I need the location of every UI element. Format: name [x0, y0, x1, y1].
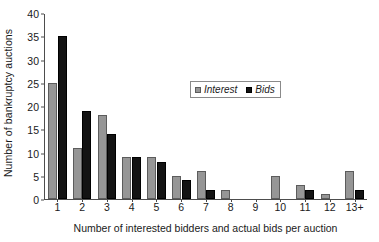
- x-axis-title: Number of interested bidders and actual …: [44, 222, 367, 234]
- bar-bids-2: [82, 111, 91, 199]
- bar-group: [45, 14, 70, 199]
- bar-group: [169, 14, 194, 199]
- bankruptcy-auctions-bar-chart: Number of bankruptcy auctions 0510152025…: [0, 0, 379, 242]
- y-axis: 0510152025303540: [16, 14, 44, 200]
- legend-entry-bids: Bids: [246, 84, 274, 95]
- bar-interest-12: [321, 194, 330, 199]
- bar-interest-11: [296, 185, 305, 199]
- bar-interest-5: [147, 157, 156, 199]
- bar-bids-7: [206, 190, 215, 199]
- bar-interest-7: [197, 171, 206, 199]
- y-axis-tick-label: 35: [27, 31, 39, 43]
- y-axis-tick-label: 15: [27, 124, 39, 136]
- bar-bids-5: [157, 162, 166, 199]
- x-axis-tick-label: 3: [104, 201, 110, 213]
- x-axis-tick-label: 8: [228, 201, 234, 213]
- y-axis-tick-label: 0: [33, 194, 39, 206]
- bar-interest-4: [122, 157, 131, 199]
- bar-bids-11: [305, 190, 314, 199]
- bar-group: [194, 14, 219, 199]
- x-axis-tick-label: 11: [300, 201, 311, 213]
- x-axis-tick-label: 10: [274, 201, 286, 213]
- y-axis-tick-label: 40: [27, 8, 39, 20]
- bar-group: [218, 14, 243, 199]
- bar-bids-1: [58, 36, 67, 199]
- bar-interest-6: [172, 176, 181, 199]
- legend-entry-interest: Interest: [195, 84, 237, 95]
- bar-bids-4: [132, 157, 141, 199]
- gray-square-swatch-icon: [195, 87, 201, 93]
- bar-group: [268, 14, 293, 199]
- bar-interest-2: [73, 148, 82, 199]
- y-axis-tick-label: 20: [27, 101, 39, 113]
- legend-label-bids: Bids: [255, 84, 274, 95]
- bar-group: [293, 14, 318, 199]
- y-axis-tick-label: 30: [27, 55, 39, 67]
- y-axis-tick-label: 5: [33, 171, 39, 183]
- x-axis-tick-label: 1: [54, 201, 60, 213]
- bar-group: [243, 14, 268, 199]
- bar-group: [342, 14, 367, 199]
- x-axis-tick-label: 13+: [346, 201, 364, 213]
- y-axis-tick-label: 10: [27, 148, 39, 160]
- y-axis-title: Number of bankruptcy auctions: [0, 0, 16, 205]
- y-axis-title-text: Number of bankruptcy auctions: [2, 28, 14, 176]
- bar-interest-3: [98, 115, 107, 199]
- bar-group: [144, 14, 169, 199]
- bar-bids-13+: [355, 190, 364, 199]
- x-axis-tick-labels: 12345678910111213+: [44, 201, 367, 217]
- chart-legend: Interest Bids: [190, 81, 281, 98]
- bar-group: [70, 14, 95, 199]
- bar-group: [119, 14, 144, 199]
- bar-group: [317, 14, 342, 199]
- x-axis-tick-label: 4: [129, 201, 135, 213]
- bar-bids-3: [107, 134, 116, 199]
- y-axis-tick-label: 25: [27, 78, 39, 90]
- x-axis-tick-label: 12: [324, 201, 336, 213]
- x-axis-tick-label: 5: [154, 201, 160, 213]
- bar-interest-8: [221, 190, 230, 199]
- black-square-swatch-icon: [246, 87, 252, 93]
- plot-area: [44, 14, 367, 200]
- bar-group: [95, 14, 120, 199]
- x-axis-tick-label: 9: [253, 201, 259, 213]
- bar-bids-6: [182, 180, 191, 199]
- bar-interest-10: [271, 176, 280, 199]
- legend-label-interest: Interest: [204, 84, 237, 95]
- bars-layer: [45, 14, 367, 199]
- bar-interest-13+: [345, 171, 354, 199]
- x-axis-tick-label: 7: [203, 201, 209, 213]
- x-axis-tick-label: 6: [178, 201, 184, 213]
- bar-interest-1: [48, 83, 57, 199]
- x-axis-tick-label: 2: [79, 201, 85, 213]
